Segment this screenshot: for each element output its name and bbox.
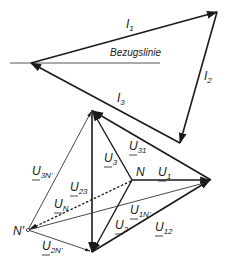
label-I2: I2 [204,69,212,85]
svg-text:U3: U3 [104,151,118,167]
label-U3N-prime: U3N' [32,164,53,180]
label-U2N-prime: U2N' [42,239,63,255]
label-I3: I3 [117,91,125,107]
phasor-I3 [31,63,180,143]
label-U1N-prime: U1N' [130,203,151,219]
svg-text:U2: U2 [115,218,129,234]
label-U23: U23 [70,180,88,196]
label-U1: U1 [158,165,171,181]
point-N-prime [26,228,29,231]
phasor-diagram: Bezugslinie I1 I2 I3 N N' U1 U2 U3 U31 U… [0,0,250,273]
svg-text:U2N': U2N' [42,239,63,255]
phasor-U31 [93,111,211,180]
label-U12: U12 [155,220,173,236]
reference-line-label: Bezugslinie [110,47,162,58]
svg-text:U1: U1 [158,165,171,181]
label-U3: U3 [104,151,118,167]
label-N: N [136,165,145,179]
label-U2: U2 [115,218,129,234]
svg-text:U12: U12 [155,220,173,236]
label-UN: UN [54,197,69,213]
svg-text:U1N': U1N' [130,203,151,219]
svg-text:U23: U23 [70,180,88,196]
svg-text:UN: UN [54,197,69,213]
label-I1: I1 [126,17,134,33]
svg-text:U3N': U3N' [32,164,53,180]
label-N-prime: N' [13,224,25,238]
